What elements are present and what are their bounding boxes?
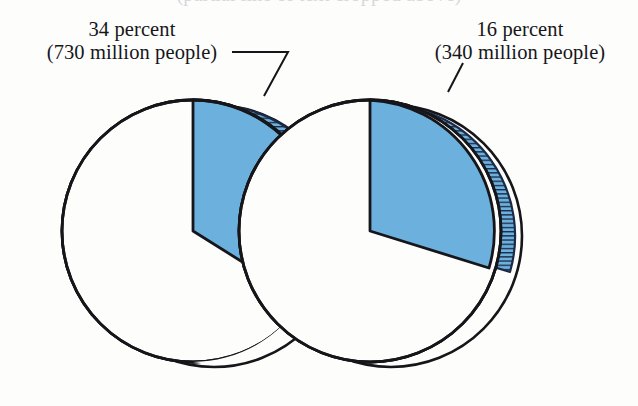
left-leader-line: [232, 52, 288, 96]
right-pie-disc: [239, 100, 522, 367]
right-leader-line: [448, 63, 463, 92]
pie-chart-graphic: [0, 0, 638, 406]
pie-chart-figure: (partial line of text cropped above) 34 …: [0, 0, 638, 406]
